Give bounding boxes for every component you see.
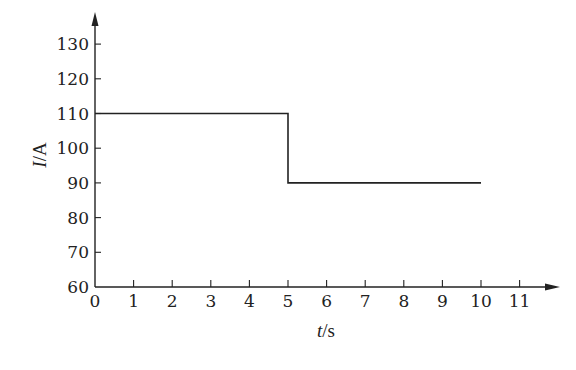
y-axis-label: I/A [29, 142, 50, 169]
y-tick-label: 80 [67, 208, 89, 228]
x-tick-label: 5 [283, 291, 294, 311]
x-axis-label: t/s [317, 320, 335, 341]
axes [92, 12, 561, 291]
x-tick-label: 8 [398, 291, 409, 311]
y-tick-label: 110 [57, 104, 89, 124]
x-tick-label: 9 [437, 291, 448, 311]
x-tick-label: 11 [509, 291, 531, 311]
x-axis-arrow-icon [545, 284, 560, 291]
y-axis-unit: /A [29, 142, 50, 161]
y-axis-arrow-icon [92, 12, 99, 26]
y-tick-label: 70 [67, 242, 89, 262]
current-vs-time-chart: 60708090100110120130 01234567891011 I/A … [0, 0, 576, 370]
x-tick-label: 3 [205, 291, 216, 311]
current-step-line [95, 114, 481, 183]
data-series [95, 114, 481, 183]
x-axis-ticks: 01234567891011 [90, 280, 531, 311]
x-tick-label: 10 [470, 291, 492, 311]
x-tick-label: 2 [167, 291, 178, 311]
y-tick-label: 100 [57, 138, 89, 158]
x-tick-label: 7 [360, 291, 371, 311]
y-tick-label: 60 [67, 277, 89, 297]
x-tick-label: 4 [244, 291, 255, 311]
x-axis-unit: /s [322, 320, 335, 341]
y-tick-label: 90 [67, 173, 89, 193]
y-tick-label: 130 [57, 34, 89, 54]
x-tick-label: 6 [321, 291, 332, 311]
x-tick-label: 0 [90, 291, 101, 311]
y-tick-label: 120 [57, 69, 89, 89]
x-tick-label: 1 [128, 291, 139, 311]
